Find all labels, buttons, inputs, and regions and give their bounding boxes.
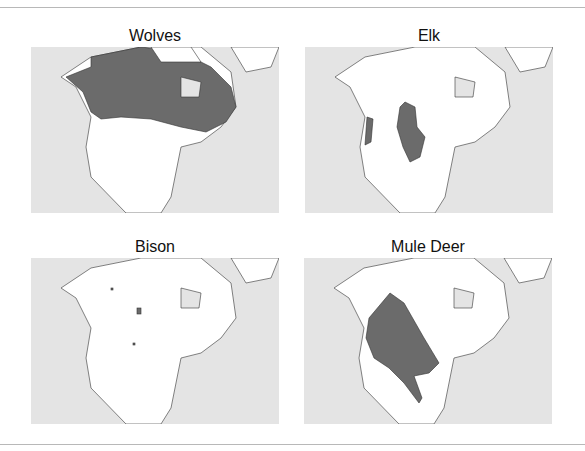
top-rule <box>0 7 585 8</box>
panel-title: Elk <box>305 27 553 45</box>
bottom-rule <box>0 444 585 445</box>
map-elk <box>305 47 553 213</box>
panel-title: Wolves <box>31 27 279 45</box>
panel-title: Mule Deer <box>304 238 552 256</box>
map-bison <box>31 258 279 424</box>
panel-title: Bison <box>31 238 279 256</box>
map-wolves <box>31 47 279 213</box>
map-mule-deer <box>304 258 552 424</box>
